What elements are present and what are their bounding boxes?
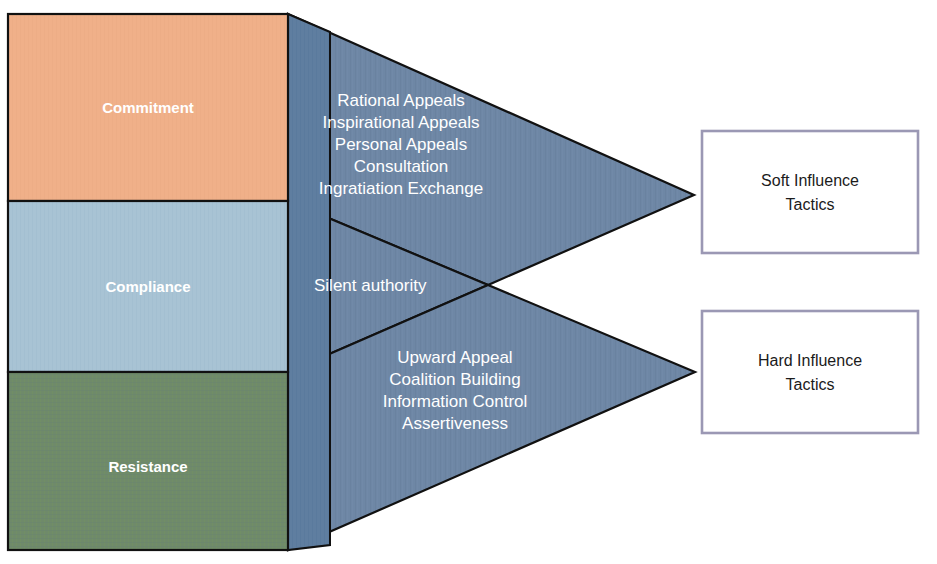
outcome-band-compliance: Compliance [8, 201, 288, 372]
hard-influence-box-frame[interactable] [702, 311, 918, 433]
outcome-band-resistance: Resistance [8, 372, 288, 550]
hard-tactic-item: Upward Appeal [397, 348, 512, 367]
soft-influence-box-line2: Tactics [786, 196, 835, 213]
commitment-label: Commitment [102, 99, 194, 116]
soft-tactic-item: Inspirational Appeals [323, 113, 480, 132]
soft-influence-box-frame[interactable] [702, 131, 918, 253]
soft-tactic-item: Consultation [354, 157, 449, 176]
soft-tactic-item: Ingratiation Exchange [319, 179, 483, 198]
hard-influence-box-line2: Tactics [786, 376, 835, 393]
compliance-label: Compliance [105, 278, 190, 295]
soft-tactic-item: Rational Appeals [337, 91, 465, 110]
middle-tactic-item: Silent authority [314, 276, 427, 295]
hard-tactic-item: Assertiveness [402, 414, 508, 433]
hard-influence-box-line1: Hard Influence [758, 352, 862, 369]
soft-influence-box-line1: Soft Influence [761, 172, 859, 189]
middle-tactic-list: Silent authority [314, 276, 427, 295]
influence-tactics-diagram: Commitment Compliance Resistance Rationa… [0, 0, 937, 564]
hard-influence-box[interactable]: Hard Influence Tactics [702, 311, 918, 433]
soft-influence-box[interactable]: Soft Influence Tactics [702, 131, 918, 253]
hard-tactic-item: Coalition Building [389, 370, 520, 389]
hard-tactic-item: Information Control [383, 392, 528, 411]
outcome-band-commitment: Commitment [8, 14, 288, 201]
diagram-canvas: Commitment Compliance Resistance Rationa… [0, 0, 937, 564]
soft-tactic-item: Personal Appeals [335, 135, 467, 154]
resistance-label: Resistance [108, 458, 187, 475]
soft-influence-tactic-list: Rational Appeals Inspirational Appeals P… [319, 91, 483, 198]
